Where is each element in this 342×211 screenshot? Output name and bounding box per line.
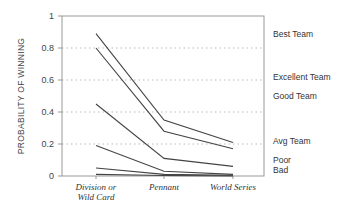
x-tick-label: Wild Card (78, 192, 115, 202)
x-tick-label: Pennant (148, 182, 179, 192)
series-labels: Best TeamExcellent TeamGood TeamAvg Team… (273, 29, 330, 174)
y-tick-label: 1 (49, 11, 54, 21)
series-lines (96, 34, 233, 176)
series-label: Good Team (273, 91, 317, 101)
y-tick-label: 0.4 (41, 107, 54, 117)
y-tick-label: 0.6 (41, 75, 54, 85)
y-tick-label: 0.8 (41, 43, 54, 53)
probability-line-chart: 00.20.40.60.81 Division orWild CardPenna… (0, 0, 342, 211)
x-tick-label: Division or (75, 182, 117, 192)
y-tick-label: 0 (49, 171, 54, 181)
series-line (96, 34, 233, 143)
series-line (96, 48, 233, 149)
x-tick-label: World Series (210, 182, 256, 192)
axes (62, 16, 264, 176)
plot-frame (62, 16, 264, 176)
series-label: Avg Team (273, 136, 311, 146)
series-label: Bad (273, 165, 288, 175)
series-label: Best Team (273, 29, 313, 39)
series-label: Excellent Team (273, 72, 330, 82)
y-axis-ticks: 00.20.40.60.81 (41, 11, 62, 181)
y-axis-label: PROBABILITY OF WINNING (16, 38, 26, 155)
x-axis-ticks: Division orWild CardPennantWorld Series (75, 176, 257, 202)
y-tick-label: 0.2 (41, 139, 54, 149)
series-label: Poor (273, 155, 291, 165)
